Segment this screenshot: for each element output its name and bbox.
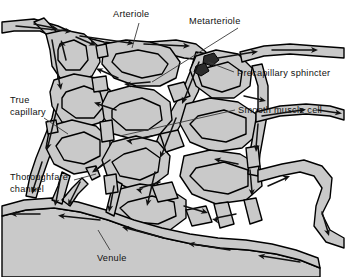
vessel-network: [2, 18, 344, 277]
label-thoroughfare-line2: channel: [10, 184, 44, 194]
label-thoroughfare-line1: Thoroughfare: [10, 172, 68, 182]
strut-right-1: [246, 146, 260, 168]
strut-bottom-right: [186, 206, 212, 226]
label-true-capillary-line2: capillary: [10, 107, 46, 117]
strut-left-1: [96, 44, 108, 58]
label-venule: Venule: [97, 253, 127, 263]
strut-left-3: [100, 120, 114, 142]
label-smooth-muscle-cell: Smooth muscle cell: [238, 105, 322, 115]
label-arteriole: Arteriole: [113, 9, 149, 19]
label-precapillary-sphincter: Precapillary sphincter: [237, 68, 330, 78]
label-metarteriole: Metarteriole: [189, 16, 241, 26]
right-lower-outflow: [258, 160, 344, 248]
strut-right-2: [244, 198, 262, 224]
capillary-upper-middle: [102, 40, 180, 86]
strut-left-4: [104, 174, 118, 194]
capillary-bed-figure: Arteriole Metarteriole Precapillary sphi…: [0, 0, 346, 277]
capillary-bed-illustration: Arteriole Metarteriole Precapillary sphi…: [0, 0, 346, 277]
label-true-capillary-line1: True: [10, 95, 30, 105]
strut-left-2: [92, 76, 108, 92]
